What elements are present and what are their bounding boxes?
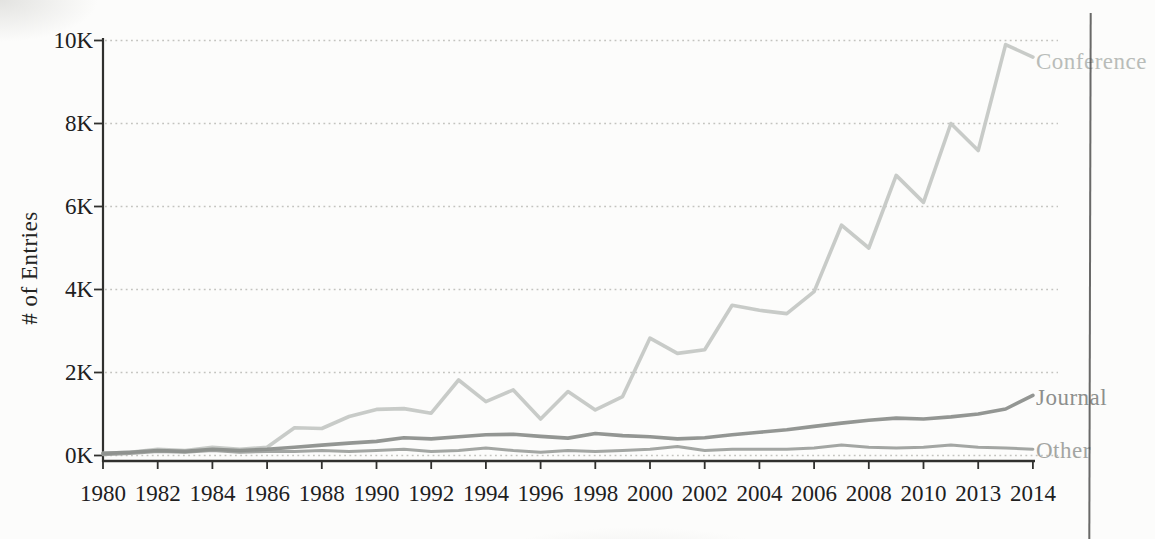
y-tick-label-4K: 4K	[20, 276, 93, 304]
series-label-journal: Journal	[1036, 383, 1107, 413]
journal-line	[103, 395, 1033, 453]
y-tick-label-0K: 0K	[20, 442, 93, 470]
line-chart-canvas	[0, 0, 1155, 539]
y-tick-label-10K: 10K	[20, 27, 93, 55]
series-label-other: Other	[1036, 436, 1091, 466]
y-tick-label-2K: 2K	[20, 359, 93, 387]
chart-figure: # of Entries 0K2K4K6K8K10K 1980198219841…	[0, 0, 1155, 539]
y-tick-label-8K: 8K	[20, 110, 93, 138]
y-tick-label-6K: 6K	[20, 193, 93, 221]
x-tick-label-2014: 2014	[988, 480, 1078, 508]
conference-line	[103, 45, 1033, 454]
